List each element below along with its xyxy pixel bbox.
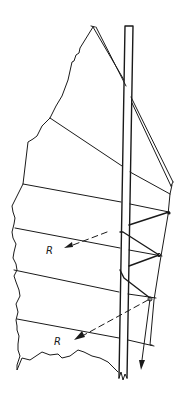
force-arrow-upper: [73, 232, 107, 245]
diagram-canvas: R R: [0, 0, 186, 399]
sheet-lead: [142, 299, 150, 360]
force-arrow-lower: [84, 300, 148, 335]
batten-5: [17, 319, 119, 338]
force-label-upper: R: [46, 245, 53, 256]
batten-1: [50, 118, 122, 166]
batten-1-right: [130, 172, 170, 194]
mast-foot: [119, 372, 127, 380]
sheet-arrow-icon: [139, 360, 145, 370]
sheet-line-upper: [120, 212, 169, 266]
force-label-lower: R: [54, 336, 61, 347]
sail-outline: [12, 27, 118, 372]
sheet-line-lower: [120, 270, 150, 298]
sheet-block-upper: [167, 211, 170, 214]
force-arrowhead-upper-icon: [64, 242, 73, 248]
batten-2-right: [130, 204, 169, 212]
sail-diagram: R R: [0, 0, 186, 399]
batten-2: [23, 184, 121, 202]
force-arrowhead-lower-icon: [74, 331, 85, 340]
yard: [91, 26, 126, 86]
batten-4: [14, 270, 119, 292]
batten-3: [15, 228, 120, 248]
leech-upper: [131, 97, 173, 186]
